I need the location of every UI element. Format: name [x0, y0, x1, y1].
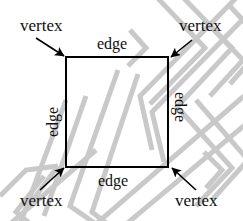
vertex-label-bottom-right: vertex: [175, 192, 217, 209]
edge-label-bottom: edge: [98, 173, 128, 189]
vertex-label-top-right: vertex: [179, 17, 221, 34]
vertex-label-top-left: vertex: [20, 17, 62, 34]
arrow-to-bottom-right-vertex: [172, 168, 196, 190]
arrow-to-bottom-left-vertex: [40, 168, 64, 190]
geometry-diagram: vertex vertex vertex vertex edge edge ed…: [0, 0, 243, 221]
square-outline: [66, 57, 168, 167]
edge-label-right: edge: [172, 92, 188, 122]
edge-label-left: edge: [45, 107, 61, 137]
vertex-label-bottom-left: vertex: [20, 192, 62, 209]
arrow-to-top-right-vertex: [171, 40, 192, 57]
edge-label-top: edge: [97, 36, 127, 52]
arrow-to-top-left-vertex: [36, 38, 64, 56]
